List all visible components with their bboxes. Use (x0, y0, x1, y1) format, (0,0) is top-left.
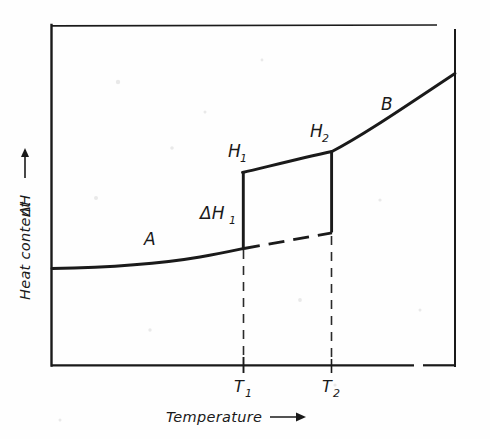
y-axis-title-symbol: ΔH (17, 195, 33, 217)
curve-label-a: A (143, 229, 156, 249)
latent-heat-label-base: ΔH (198, 203, 225, 223)
tick-label-t2-subscript: 2 (333, 387, 340, 400)
droplines (244, 236, 332, 362)
tick-label-t2-base: T (322, 377, 333, 396)
y-axis-arrow-icon (21, 148, 29, 178)
top-border-line (51, 25, 437, 26)
x-axis-arrow-icon (270, 413, 306, 422)
latent-heat-label-subscript: 1 (229, 214, 236, 227)
point-label-h1: H 1 (228, 141, 247, 165)
x-axis-title: Temperature (166, 409, 306, 425)
curve-two-phase-region (243, 152, 332, 173)
paper-texture (59, 59, 422, 422)
tick-label-t2: T 2 (322, 377, 340, 400)
tick-label-t1-base: T (234, 377, 245, 396)
enthalpy-temperature-figure: A B H 1 H 2 ΔH 1 T 1 T 2 Temperature (0, 0, 490, 439)
figure-canvas: A B H 1 H 2 ΔH 1 T 1 T 2 Temperature (0, 0, 490, 439)
plot-frame (51, 25, 455, 366)
x-axis-title-text: Temperature (166, 409, 262, 425)
point-label-h2-subscript: 2 (322, 132, 329, 145)
latent-heat-label: ΔH 1 (198, 203, 236, 227)
point-label-h2: H 2 (310, 121, 329, 145)
curve-label-b: B (381, 94, 393, 114)
metastable-extension-dashed (244, 233, 332, 249)
tick-label-t1: T 1 (234, 377, 252, 400)
curve-branch-b (332, 74, 456, 152)
y-axis-title: Heat content ΔH (17, 148, 33, 300)
tick-label-t1-subscript: 1 (245, 387, 252, 400)
curve-branch-a (52, 249, 244, 269)
point-label-h1-subscript: 1 (240, 152, 247, 165)
